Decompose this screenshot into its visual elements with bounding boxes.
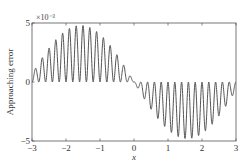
- x-tick-label: −1: [95, 143, 105, 153]
- x-axis-ticks: −3−2−10123: [27, 23, 239, 153]
- x-tick-label: −2: [61, 143, 71, 153]
- x-tick-label: 2: [200, 143, 205, 153]
- x-tick-label: 1: [166, 143, 171, 153]
- y-tick-label: −5: [20, 136, 30, 146]
- y-axis-label: Approaching error: [5, 49, 15, 116]
- y-tick-label: 0: [26, 77, 31, 87]
- y-tick-label: 5: [26, 18, 31, 28]
- error-curve-path: [32, 26, 236, 139]
- x-axis-label: x: [131, 152, 136, 162]
- error-curve: [32, 26, 236, 139]
- x-tick-label: 3: [234, 143, 239, 153]
- approaching-error-chart: −3−2−10123 −505 ×10⁻³ x Approaching erro…: [0, 0, 250, 167]
- y-scale-label: ×10⁻³: [36, 13, 56, 22]
